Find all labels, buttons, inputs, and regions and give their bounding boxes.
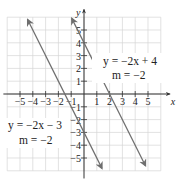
equation-label-lower: y = −2x − 3 [8, 119, 62, 132]
x-tick-label: −5 [15, 96, 26, 107]
y-tick-label: −4 [70, 140, 81, 151]
y-axis-label: y [75, 7, 81, 18]
x-tick-label: −4 [27, 96, 38, 107]
y-tick-label: 4 [76, 38, 81, 49]
y-tick-label: −3 [70, 127, 81, 138]
x-tick-label: −3 [40, 96, 51, 107]
axes [3, 10, 169, 179]
y-tick-label: 3 [76, 51, 81, 62]
x-tick-label: −2 [53, 96, 64, 107]
slope-label-upper: m = −2 [112, 69, 146, 81]
y-tick-label: 1 [76, 76, 81, 87]
y-tick-label: 2 [76, 63, 81, 74]
x-tick-label: 3 [120, 96, 125, 107]
y-tick-label: −5 [70, 153, 81, 164]
series-line-1 [72, 18, 146, 165]
x-tick-label: 4 [133, 96, 138, 107]
x-tick-label: 5 [146, 96, 151, 107]
slope-label-lower: m = −2 [19, 134, 53, 146]
equation-label-upper: y = −2x + 4 [103, 55, 157, 68]
x-tick-label: 1 [94, 96, 99, 107]
coordinate-plane: −5−4−3−2−112345−5−4−3−2−112345xy y = −2x… [0, 0, 176, 186]
x-axis-label: x [170, 96, 176, 107]
